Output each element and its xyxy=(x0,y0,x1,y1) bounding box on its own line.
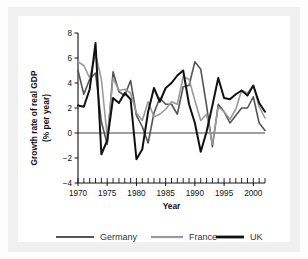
x-tick-label: 1975 xyxy=(98,189,117,198)
y-tick-label: 0 xyxy=(67,129,72,138)
legend-label-uk: UK xyxy=(250,232,263,242)
y-axis-title: Growth rate of real GDP (% per year) xyxy=(29,70,51,165)
y-tick-label: 4 xyxy=(67,79,72,88)
x-tick-label: 1985 xyxy=(157,189,176,198)
y-tick-label: −2 xyxy=(63,154,73,163)
x-tick-label: 1980 xyxy=(127,189,146,198)
x-tick-label: 1990 xyxy=(186,189,205,198)
x-axis-ticks: 1970197519801985199019952000 xyxy=(69,183,263,198)
data-series-group xyxy=(78,43,265,159)
x-tick-label: 1970 xyxy=(69,189,88,198)
gdp-growth-line-chart: Growth rate of real GDP (% per year) 864… xyxy=(0,0,308,259)
x-axis-title: Year xyxy=(163,201,181,211)
y-tick-label: 8 xyxy=(67,29,72,38)
y-axis-ticks: 86420−2−4 xyxy=(63,29,78,188)
y-tick-label: −4 xyxy=(63,179,73,188)
x-tick-label: 1995 xyxy=(215,189,234,198)
legend-label-germany: Germany xyxy=(100,232,138,242)
chart-legend: GermanyFranceUK xyxy=(56,232,263,242)
x-tick-label: 2000 xyxy=(244,189,263,198)
y-axis-title-line1: Growth rate of real GDP xyxy=(29,70,39,165)
figure-container: Growth rate of real GDP (% per year) 864… xyxy=(0,0,308,259)
series-line-france xyxy=(78,54,265,144)
x-axis-minor-ticks xyxy=(78,178,265,183)
legend-label-france: France xyxy=(189,232,217,242)
y-tick-label: 6 xyxy=(67,54,72,63)
chart-plot-wrapper: Growth rate of real GDP (% per year) 864… xyxy=(0,0,308,259)
y-axis-title-line2: (% per year) xyxy=(41,94,51,142)
y-tick-label: 2 xyxy=(67,104,72,113)
